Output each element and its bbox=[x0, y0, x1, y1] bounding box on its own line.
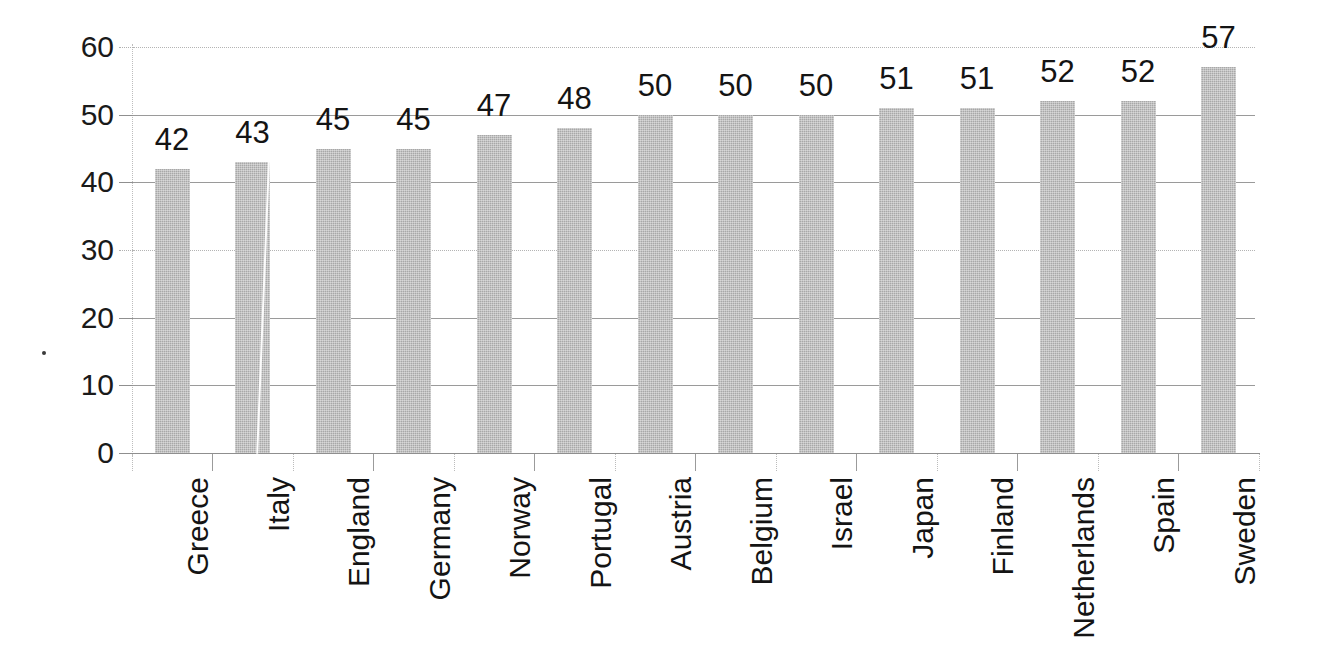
y-tick-label-40: 40 bbox=[50, 167, 114, 197]
category-label-finland: Finland bbox=[988, 477, 1018, 575]
gridline-30 bbox=[133, 250, 1255, 251]
y-tick-mark-10 bbox=[119, 385, 133, 386]
x-tick-mark-1 bbox=[212, 454, 213, 471]
chart-page: 0102030405060 42434545474850505051515252… bbox=[0, 0, 1318, 672]
category-label-greece: Greece bbox=[183, 477, 213, 575]
category-label-norway: Norway bbox=[505, 477, 535, 579]
bar-england bbox=[316, 149, 351, 454]
x-axis-line bbox=[120, 453, 1260, 454]
value-label-austria: 50 bbox=[615, 70, 695, 101]
y-tick-label-60: 60 bbox=[50, 32, 114, 62]
x-tick-mark-0 bbox=[132, 454, 133, 471]
y-tick-mark-30 bbox=[119, 250, 133, 251]
bar-portugal bbox=[557, 128, 592, 453]
value-label-netherlands: 52 bbox=[1018, 56, 1098, 87]
bar-japan bbox=[879, 108, 914, 453]
value-label-spain: 52 bbox=[1098, 56, 1178, 87]
x-tick-mark-14 bbox=[1259, 454, 1260, 471]
x-tick-mark-9 bbox=[856, 454, 857, 471]
bar-sweden bbox=[1201, 67, 1236, 453]
x-tick-mark-7 bbox=[695, 454, 696, 471]
bar-norway bbox=[477, 135, 512, 453]
bar-spain bbox=[1121, 101, 1156, 453]
x-tick-mark-11 bbox=[1017, 454, 1018, 471]
value-label-norway: 47 bbox=[454, 90, 534, 121]
value-label-italy: 43 bbox=[213, 117, 293, 148]
x-tick-mark-5 bbox=[534, 454, 535, 471]
bar-israel bbox=[799, 115, 834, 453]
y-tick-label-10: 10 bbox=[50, 370, 114, 400]
y-tick-label-50: 50 bbox=[50, 100, 114, 130]
category-label-japan: Japan bbox=[908, 477, 938, 559]
value-label-finland: 51 bbox=[937, 63, 1017, 94]
category-label-spain: Spain bbox=[1149, 477, 1179, 554]
y-tick-mark-50 bbox=[119, 115, 133, 116]
bar-netherlands bbox=[1040, 101, 1075, 453]
y-tick-label-30: 30 bbox=[50, 235, 114, 265]
category-label-belgium: Belgium bbox=[747, 477, 777, 585]
value-label-japan: 51 bbox=[857, 63, 937, 94]
category-label-italy: Italy bbox=[264, 477, 294, 532]
scan-speck-artifact bbox=[42, 351, 46, 355]
value-label-israel: 50 bbox=[776, 70, 856, 101]
gridline-40 bbox=[133, 182, 1255, 183]
bar-austria bbox=[638, 115, 673, 453]
value-label-sweden: 57 bbox=[1179, 22, 1259, 53]
y-tick-label-20: 20 bbox=[50, 303, 114, 333]
value-label-germany: 45 bbox=[374, 104, 454, 135]
x-tick-mark-2 bbox=[293, 454, 294, 471]
value-label-portugal: 48 bbox=[535, 83, 615, 114]
y-axis-tick-labels: 0102030405060 bbox=[40, 0, 114, 672]
y-tick-mark-20 bbox=[119, 318, 133, 319]
category-label-portugal: Portugal bbox=[586, 477, 616, 589]
x-tick-mark-6 bbox=[615, 454, 616, 471]
bar-greece bbox=[155, 169, 190, 453]
category-label-netherlands: Netherlands bbox=[1069, 477, 1099, 639]
bar-finland bbox=[960, 108, 995, 453]
y-tick-mark-60 bbox=[119, 47, 133, 48]
category-label-england: England bbox=[344, 477, 374, 587]
value-label-greece: 42 bbox=[132, 124, 212, 155]
bar-belgium bbox=[718, 115, 753, 453]
category-label-sweden: Sweden bbox=[1230, 477, 1260, 585]
category-label-austria: Austria bbox=[666, 477, 696, 570]
x-tick-mark-13 bbox=[1178, 454, 1179, 471]
category-label-germany: Germany bbox=[425, 477, 455, 600]
value-label-england: 45 bbox=[293, 104, 373, 135]
bar-germany bbox=[396, 149, 431, 454]
gridline-20 bbox=[133, 318, 1255, 319]
x-tick-mark-10 bbox=[937, 454, 938, 471]
x-tick-mark-3 bbox=[373, 454, 374, 471]
gridline-60 bbox=[133, 47, 1255, 48]
bar-italy bbox=[235, 162, 270, 453]
value-label-belgium: 50 bbox=[696, 70, 776, 101]
x-tick-mark-12 bbox=[1098, 454, 1099, 471]
y-tick-mark-40 bbox=[119, 182, 133, 183]
x-tick-mark-8 bbox=[776, 454, 777, 471]
y-tick-label-0: 0 bbox=[50, 438, 114, 468]
category-label-israel: Israel bbox=[827, 477, 857, 550]
x-tick-mark-4 bbox=[454, 454, 455, 471]
gridline-10 bbox=[133, 385, 1255, 386]
